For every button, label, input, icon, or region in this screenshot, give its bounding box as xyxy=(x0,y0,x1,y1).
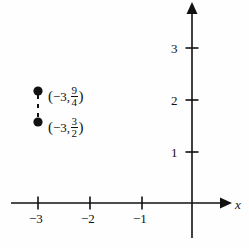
y-axis-arrowhead xyxy=(187,2,198,14)
fraction-numerator-lower: 3 xyxy=(71,116,79,127)
paren-close-lower: ) xyxy=(79,120,84,135)
y-tick-label-3: 3 xyxy=(171,42,178,55)
comma-lower: , xyxy=(67,121,70,134)
x-axis-name-label: x xyxy=(235,198,241,211)
x-tick-label-minus1: −1 xyxy=(133,212,147,225)
point-label-lower: ( −3 , 3 2 ) xyxy=(48,116,84,140)
data-point-upper xyxy=(33,86,42,95)
fraction-denominator-upper: 4 xyxy=(71,96,79,108)
fraction-upper: 9 4 xyxy=(71,85,79,109)
x-value-upper: −3 xyxy=(53,90,67,103)
y-tick-label-2: 2 xyxy=(171,94,178,107)
x-axis-arrowhead xyxy=(220,198,232,209)
fraction-denominator-lower: 2 xyxy=(71,127,79,139)
x-value-lower: −3 xyxy=(53,121,67,134)
fraction-numerator-upper: 9 xyxy=(71,85,79,96)
y-tick-label-1: 1 xyxy=(171,146,178,159)
x-tick-label-minus3: −3 xyxy=(29,212,43,225)
x-tick-label-minus2: −2 xyxy=(81,212,95,225)
coordinate-plane-figure: −3 −2 −1 3 2 1 x ( −3 , 9 4 ) ( −3 , 3 2… xyxy=(0,0,249,248)
fraction-lower: 3 2 xyxy=(71,116,79,140)
comma-upper: , xyxy=(67,90,70,103)
data-point-lower xyxy=(33,117,42,126)
point-label-upper: ( −3 , 9 4 ) xyxy=(48,85,84,109)
paren-close-upper: ) xyxy=(79,89,84,104)
